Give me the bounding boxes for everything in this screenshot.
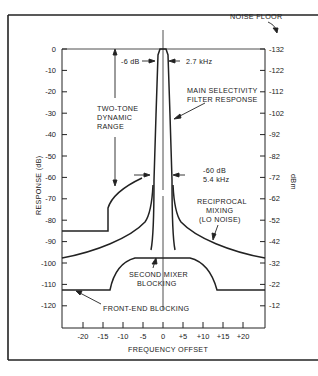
x-tick-label: +5 [179,332,188,341]
right-tick-label: -72 [269,173,280,182]
right-tick-label: -42 [269,237,280,246]
two-tone-label-2: DYNAMIC [97,113,132,122]
annotation-arrows [76,22,278,304]
x-axis-title: FREQUENCY OFFSET [128,345,208,354]
bandwidth-27-label: 2.7 kHz [186,57,213,66]
x-tick-label: +15 [217,332,230,341]
left-tick-label: -40 [45,130,56,139]
bandwidth-54-label: 5.4 kHz [203,175,230,184]
second-mixer-label-2: BLOCKING [137,279,177,288]
right-tick-label: -122 [269,66,284,75]
left-tick-label: -60 [45,173,56,182]
x-tick-label: -20 [78,332,89,341]
left-tick-label: -120 [41,301,56,310]
right-tick-label: -132 [269,45,284,54]
y2-axis-title: dBm [289,174,298,190]
front-end-label: FRONT-END BLOCKING [103,304,190,313]
left-tick-label: -110 [42,280,56,289]
reciprocal-label-3: (LO NOISE) [199,215,241,224]
right-y-axis: -132-122-112-102-92-82-72-62-52-42-32-22… [260,45,284,311]
minus-6db-label: -6 dB [121,57,140,66]
right-tick-label: -112 [269,87,283,96]
left-tick-label: 0 [52,45,56,54]
main-selectivity-label-2: FILTER RESPONSE [187,95,258,104]
minus-60db-label: -60 dB [203,166,226,175]
chart-figure: 0-10-20-30-40-50-60-70-80-90-100-110-120… [0,0,318,376]
left-tick-label: -80 [45,216,56,225]
right-tick-label: -22 [269,280,280,289]
right-tick-label: -82 [269,152,280,161]
y-axis-title: RESPONSE (dB) [34,156,43,215]
annotation-labels: NOISE FLOOR -6 dB 2.7 kHz MAIN SELECTIVI… [34,12,298,354]
second-mixer-label-1: SECOND MIXER [129,270,188,279]
reciprocal-label-1: RECIPROCAL [197,197,247,206]
x-tick-label: +10 [197,332,210,341]
x-axis: -20-15-10-50+5+10+15+20 [78,322,250,341]
main-selectivity-label-1: MAIN SELECTIVITY [187,86,258,95]
left-tick-label: -90 [45,237,56,246]
right-tick-label: -32 [269,259,280,268]
x-tick-label: 0 [161,332,165,341]
x-tick-label: -15 [98,332,109,341]
left-tick-label: -20 [45,87,56,96]
left-tick-label: -30 [45,109,56,118]
right-tick-label: -12 [269,301,280,310]
two-tone-curve [62,178,142,231]
two-tone-label-3: RANGE [97,122,124,131]
left-y-axis: 0-10-20-30-40-50-60-70-80-90-100-110-120 [41,45,67,311]
x-tick-label: -5 [140,332,147,341]
left-tick-label: -10 [45,66,56,75]
x-tick-label: -10 [118,332,129,341]
left-tick-label: -100 [41,259,56,268]
right-tick-label: -102 [269,109,284,118]
left-tick-label: -50 [45,152,56,161]
right-tick-label: -92 [269,130,280,139]
reciprocal-label-2: MIXING [206,206,233,215]
right-tick-label: -62 [269,194,280,203]
left-tick-label: -70 [45,194,56,203]
noise-floor-label: NOISE FLOOR [230,12,282,21]
x-tick-label: +20 [237,332,250,341]
right-tick-label: -52 [269,216,280,225]
two-tone-label-1: TWO-TONE [97,104,138,113]
